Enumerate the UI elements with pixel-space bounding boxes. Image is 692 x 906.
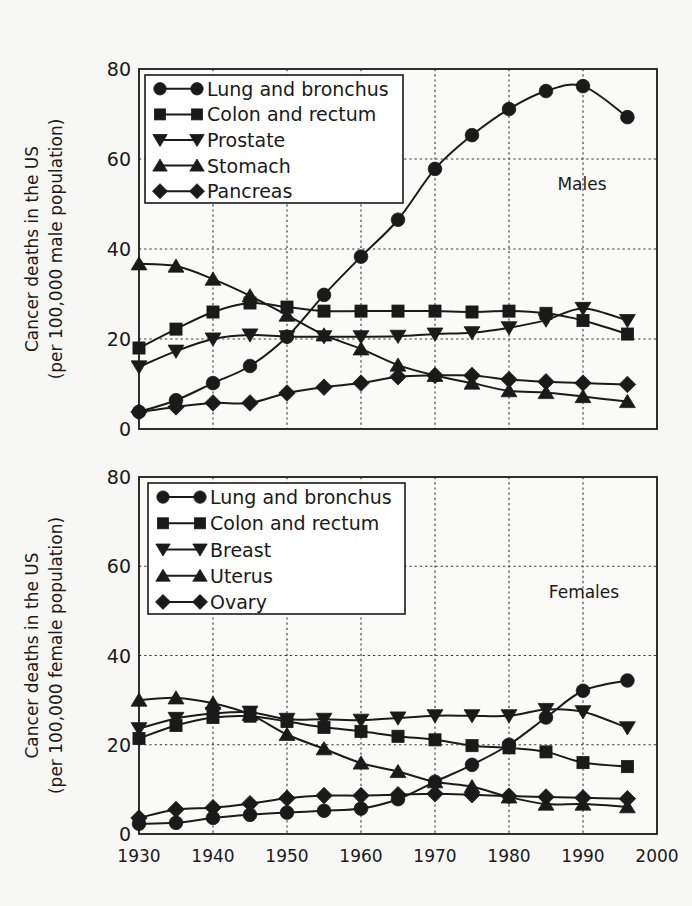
square-marker-icon [466,306,478,318]
y-tick-label: 20 [107,328,131,350]
y-tick-label: 0 [119,418,131,440]
circle-marker-icon [502,102,516,116]
y-axis-ticks: 020406080 [107,58,131,440]
legend-label: Stomach [207,155,291,177]
legend-label: Uterus [210,565,273,587]
circle-marker-icon [576,684,590,698]
circle-legend-icon [194,491,206,503]
y-tick-label: 80 [107,58,131,80]
x-tick-label: 1950 [265,846,308,866]
x-axis-ticks: 19301940195019601970198019902000 [117,846,678,866]
circle-marker-icon [465,128,479,142]
x-tick-label: 1940 [191,846,234,866]
y-axis-ticks: 020406080 [107,466,131,845]
y-tick-label: 20 [107,734,131,756]
legend-label: Lung and bronchus [210,486,392,508]
y-tick-label: 0 [119,823,131,845]
square-marker-icon [466,740,478,752]
y-axis-label-line2: (per 100,000 female population) [46,517,66,794]
circle-marker-icon [621,674,635,688]
y-axis-label: Cancer deaths in the US(per 100,000 fema… [22,517,66,794]
square-marker-icon [621,328,633,340]
circle-marker-icon [317,288,331,302]
bottom-panel-females: 0204060801930194019501960197019801990200… [22,466,679,866]
square-legend-icon [195,518,206,529]
square-marker-icon [503,305,515,317]
y-tick-label: 80 [107,466,131,488]
circle-marker-icon [317,804,331,818]
square-marker-icon [207,306,219,318]
circle-marker-icon [539,84,553,98]
square-marker-icon [621,761,633,773]
legend-label: Colon and rectum [210,512,379,534]
top-panel-males: 020406080Cancer deaths in the US(per 100… [22,58,657,440]
circle-legend-icon [191,83,203,95]
y-tick-label: 60 [107,148,131,170]
square-legend-icon [158,518,169,529]
y-tick-label: 60 [107,555,131,577]
x-tick-label: 1960 [339,846,382,866]
square-marker-icon [577,757,589,769]
circle-marker-icon [280,806,294,820]
square-marker-icon [170,323,182,335]
square-marker-icon [318,305,330,317]
circle-marker-icon [243,359,257,373]
y-axis-label: Cancer deaths in the US(per 100,000 male… [22,119,66,380]
panel-annotation: Females [549,582,619,602]
circle-marker-icon [465,758,479,772]
square-marker-icon [429,305,441,317]
circle-marker-icon [621,110,635,124]
x-tick-label: 1980 [487,846,530,866]
square-marker-icon [503,742,515,754]
square-marker-icon [355,305,367,317]
y-tick-label: 40 [107,645,131,667]
x-tick-label: 1930 [117,846,160,866]
y-axis-label-line1: Cancer deaths in the US [22,552,42,758]
legend-label: Breast [210,539,271,561]
y-tick-label: 40 [107,238,131,260]
circle-legend-icon [157,491,169,503]
legend-label: Colon and rectum [207,103,376,125]
x-tick-label: 1990 [561,846,604,866]
y-axis-label-line2: (per 100,000 male population) [46,119,66,380]
panel-annotation: Males [557,174,606,194]
square-legend-icon [192,109,203,120]
legend-label: Ovary [210,591,267,613]
y-axis-label-line1: Cancer deaths in the US [22,146,42,352]
x-tick-label: 1970 [413,846,456,866]
legend-label: Prostate [207,129,285,151]
legend: Lung and bronchusColon and rectumBreastU… [148,483,405,614]
legend-label: Lung and bronchus [207,78,389,100]
legend-label: Pancreas [207,180,292,202]
circle-legend-icon [154,83,166,95]
circle-marker-icon [206,376,220,390]
square-marker-icon [392,730,404,742]
circle-marker-icon [576,79,590,93]
x-tick-label: 2000 [635,846,678,866]
square-marker-icon [392,305,404,317]
square-marker-icon [540,746,552,758]
circle-marker-icon [354,250,368,264]
circle-marker-icon [391,213,405,227]
chart-canvas: 020406080Cancer deaths in the US(per 100… [0,0,692,906]
cancer-deaths-figure: 020406080Cancer deaths in the US(per 100… [0,0,692,906]
circle-marker-icon [428,162,442,176]
legend: Lung and bronchusColon and rectumProstat… [145,75,403,203]
square-legend-icon [155,109,166,120]
square-marker-icon [429,734,441,746]
